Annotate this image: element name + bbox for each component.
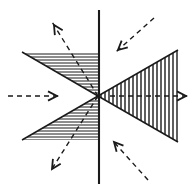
phase-portrait-diagram: [0, 0, 196, 193]
figure-container: [0, 0, 196, 193]
